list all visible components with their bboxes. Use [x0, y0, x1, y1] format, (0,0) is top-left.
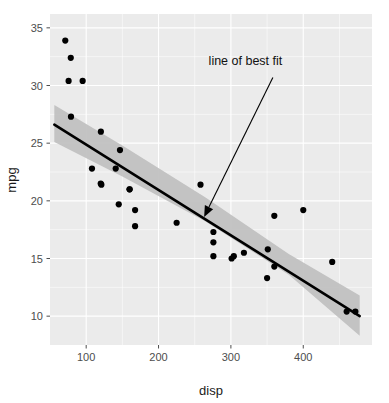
- data-point: [80, 78, 86, 84]
- x-axis-title: disp: [199, 383, 223, 398]
- y-axis-title: mpg: [4, 167, 19, 192]
- data-point: [210, 253, 216, 259]
- x-tick-label: 100: [77, 351, 95, 363]
- data-point: [68, 114, 74, 120]
- data-point: [132, 223, 138, 229]
- data-point: [116, 201, 122, 207]
- data-point: [62, 37, 68, 43]
- x-tick-label: 300: [222, 351, 240, 363]
- data-point: [98, 129, 104, 135]
- y-tick-label: 25: [31, 137, 43, 149]
- y-tick-label: 30: [31, 80, 43, 92]
- data-point: [344, 308, 350, 314]
- data-point: [98, 182, 104, 188]
- data-point: [300, 207, 306, 213]
- data-point: [229, 255, 235, 261]
- data-point: [113, 165, 119, 171]
- data-point: [68, 55, 74, 61]
- data-point: [264, 275, 270, 281]
- x-tick-label: 400: [294, 351, 312, 363]
- data-point: [132, 207, 138, 213]
- data-point: [352, 308, 358, 314]
- data-point: [174, 220, 180, 226]
- scatter-plot-svg: 100200300400 101520253035 disp mpg line …: [0, 0, 389, 403]
- y-tick-label: 35: [31, 22, 43, 34]
- y-tick-label: 20: [31, 195, 43, 207]
- data-point: [197, 182, 203, 188]
- data-point: [241, 250, 247, 256]
- data-point: [65, 78, 71, 84]
- data-point: [265, 246, 271, 252]
- data-point: [126, 186, 132, 192]
- chart-figure: 100200300400 101520253035 disp mpg line …: [0, 0, 389, 403]
- data-point: [210, 229, 216, 235]
- data-point: [210, 239, 216, 245]
- y-tick-label: 10: [31, 310, 43, 322]
- x-tick-label: 200: [149, 351, 167, 363]
- data-point: [329, 259, 335, 265]
- y-tick-label: 15: [31, 253, 43, 265]
- data-point: [89, 165, 95, 171]
- data-point: [117, 147, 123, 153]
- annotation-label: line of best fit: [209, 54, 283, 68]
- data-point: [271, 213, 277, 219]
- data-point: [271, 263, 277, 269]
